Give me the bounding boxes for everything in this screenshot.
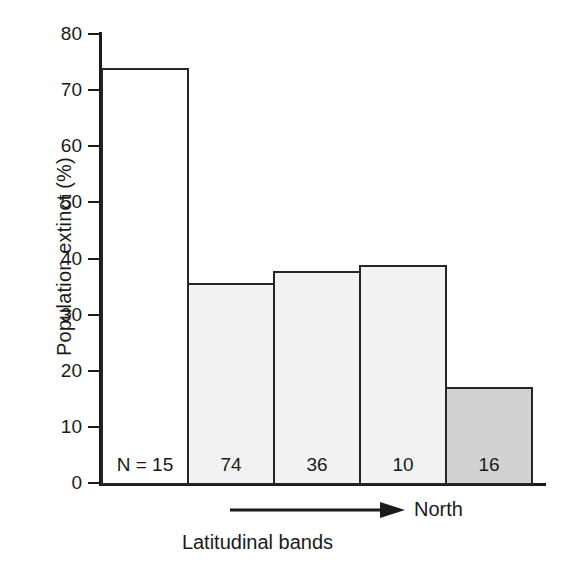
x-axis-title: Latitudinal bands <box>0 531 575 553</box>
bar-value-label: 36 <box>275 455 359 474</box>
bar: 36 <box>273 271 361 485</box>
bar-value-label: 16 <box>447 455 531 474</box>
north-arrow-icon <box>230 500 405 520</box>
plot-area: N = 1574361016 <box>0 0 575 574</box>
bar-value-label: 74 <box>189 455 273 474</box>
bar-value-label: N = 15 <box>103 455 187 474</box>
bar-chart-figure: Population extinct (%) 80706050403020100… <box>0 0 575 574</box>
north-label: North <box>414 499 463 519</box>
bar: N = 15 <box>101 68 189 485</box>
bar: 74 <box>187 283 275 485</box>
bar-value-label: 10 <box>361 455 445 474</box>
bar: 10 <box>359 265 447 485</box>
bar: 16 <box>445 387 533 485</box>
